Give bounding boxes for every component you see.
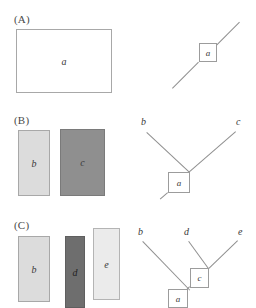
node-label-c: c (198, 273, 202, 283)
panel-c-rectangle-e: e (93, 228, 120, 300)
node-label-a: a (177, 178, 182, 188)
panel-c-tip-label-b: b (138, 226, 143, 237)
rect-label-b: b (32, 264, 37, 275)
panel-label-c: (C) (14, 219, 29, 231)
panel-c-edge-e (209, 240, 238, 269)
panel-c-node-c: c (190, 268, 209, 288)
panel-b-tip-label-b: b (141, 116, 146, 127)
panel-b-edge-b (146, 132, 190, 173)
panel-c-edge-b (142, 241, 190, 291)
figure-canvas: (A) a a (B) b c a b c (C) b d e c (0, 0, 256, 308)
panel-a-edge-root (172, 62, 199, 89)
panel-b-rectangle-c: c (60, 129, 105, 196)
panel-c-tip-label-e: e (238, 226, 242, 237)
panel-c-rectangle-d: d (65, 236, 85, 308)
panel-label-a: (A) (14, 13, 30, 25)
panel-c-tip-label-d: d (184, 226, 189, 237)
rect-label-d: d (73, 267, 78, 278)
panel-a-node-a: a (199, 43, 217, 62)
panel-b-edge-c (188, 131, 236, 173)
rect-label-a: a (62, 56, 67, 67)
node-label-a: a (206, 48, 211, 58)
panel-c-edge-d (188, 241, 209, 269)
panel-label-b: (B) (14, 114, 29, 126)
rect-label-b: b (32, 158, 37, 169)
panel-a-edge-upper (213, 22, 240, 49)
panel-b-node-a: a (168, 172, 190, 193)
node-label-a: a (176, 294, 181, 304)
panel-c-rectangle-b: b (18, 236, 50, 302)
panel-b-rectangle-b: b (18, 130, 50, 196)
panel-b-edge-root (160, 192, 168, 199)
rect-label-c: c (80, 157, 84, 168)
panel-b-tip-label-c: c (236, 116, 240, 127)
rect-label-e: e (104, 259, 108, 270)
panel-c-node-a: a (168, 289, 188, 308)
panel-a-rectangle-a: a (16, 29, 112, 93)
